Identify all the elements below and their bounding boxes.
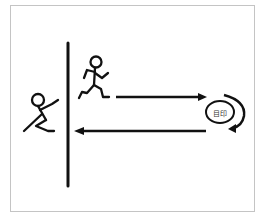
marker-label: 目印 [205,108,235,118]
stick-figure-standing-icon [24,94,58,131]
arrow-left-icon [74,127,206,135]
arrow-right-icon [116,93,207,101]
stick-figure-running-icon [79,57,109,99]
